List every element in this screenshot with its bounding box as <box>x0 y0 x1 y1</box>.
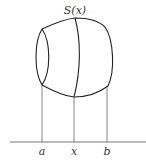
axis-label-b: b <box>103 145 110 158</box>
left-ellipse-front <box>42 29 49 85</box>
left-ellipse-back <box>36 29 42 85</box>
axis-label-a: a <box>39 145 46 158</box>
right-edge <box>105 27 113 86</box>
top-edge <box>42 18 105 29</box>
solid-outline <box>36 18 113 97</box>
solid-diagram: S(x) a x b <box>0 0 146 163</box>
axis-label-x: x <box>71 145 78 158</box>
cross-section-label: S(x) <box>64 4 86 17</box>
cross-section-s-of-x <box>74 18 79 97</box>
